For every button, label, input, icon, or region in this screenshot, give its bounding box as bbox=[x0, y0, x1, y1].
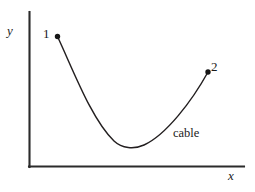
endpoint-label-1: 1 bbox=[43, 27, 50, 40]
endpoint-dot-2 bbox=[205, 69, 210, 74]
endpoint-label-2: 2 bbox=[211, 60, 218, 73]
endpoint-dot-1 bbox=[55, 34, 60, 39]
y-axis-label: y bbox=[7, 24, 13, 37]
cable-diagram: y x 1 2 cable bbox=[0, 0, 255, 192]
cable-annotation-label: cable bbox=[173, 127, 199, 140]
x-axis-label: x bbox=[228, 169, 234, 182]
figure-canvas bbox=[0, 0, 255, 192]
